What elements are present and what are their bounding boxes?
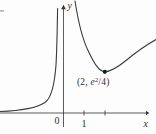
tick-1-label: 1 bbox=[82, 119, 87, 129]
curve-left-branch bbox=[0, 9, 58, 112]
graph-canvas bbox=[0, 0, 156, 134]
stray-mark bbox=[0, 10, 4, 11]
function-graph-figure: y x 0 1 (2, e2/4) bbox=[0, 0, 156, 134]
y-axis-label: y bbox=[68, 1, 72, 11]
curve-right-branch bbox=[75, 1, 156, 72]
point-label-suffix: /4) bbox=[98, 77, 109, 87]
minimum-point-label: (2, e2/4) bbox=[77, 78, 110, 88]
y-axis-arrowhead bbox=[61, 5, 66, 9]
point-label-prefix: (2, bbox=[77, 77, 90, 87]
minimum-point-dot bbox=[103, 70, 107, 74]
origin-label: 0 bbox=[55, 116, 60, 126]
x-axis-label: x bbox=[144, 119, 148, 129]
x-axis-arrowhead bbox=[146, 111, 149, 116]
